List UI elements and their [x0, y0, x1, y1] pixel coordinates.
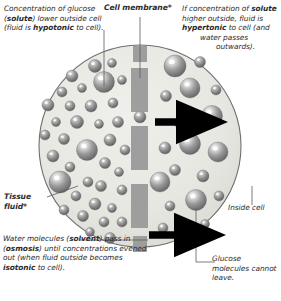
- molecule-highlight: [200, 173, 203, 175]
- glucose-molecule: [104, 134, 116, 146]
- molecule-highlight: [154, 176, 159, 180]
- glucose-molecule: [211, 85, 221, 95]
- glucose-molecule: [186, 190, 207, 211]
- label-inside-cell: Inside cell: [228, 203, 280, 213]
- molecule-highlight: [96, 121, 98, 123]
- glucose-molecule: [117, 217, 127, 227]
- molecule-highlight: [119, 187, 122, 189]
- glucose-molecule: [202, 106, 223, 127]
- glucose-molecule: [201, 220, 210, 229]
- molecule-highlight: [172, 167, 175, 169]
- glucose-molecule: [65, 162, 75, 172]
- label-top-right-l3a: fluid is: [239, 14, 263, 23]
- glucose-molecule: [71, 191, 81, 201]
- label-top-right-l6: outwards).: [182, 42, 278, 52]
- label-top-left-l2c: ) lower: [32, 14, 57, 23]
- label-bottom-left-l5c: to cell).: [35, 263, 65, 272]
- glucose-molecule: [71, 116, 84, 129]
- glucose-molecule: [113, 117, 124, 128]
- molecule-highlight: [163, 93, 166, 95]
- label-bottom-left-l5a: becomes: [90, 253, 123, 262]
- label-cell-membrane-text: Cell membrane*: [104, 3, 172, 12]
- molecule-highlight: [160, 225, 163, 227]
- label-bottom-left-l1: Water molecules: [3, 234, 64, 243]
- molecule-highlight: [212, 146, 217, 150]
- molecule-highlight: [87, 229, 89, 231]
- label-top-right: If concentration of solute higher outsid…: [182, 4, 278, 52]
- molecule-highlight: [42, 132, 45, 134]
- term-solute-2: solute: [251, 4, 277, 13]
- molecule-highlight: [79, 85, 81, 87]
- glucose-molecule: [120, 145, 130, 155]
- molecule-highlight: [167, 203, 170, 205]
- molecule-highlight: [61, 136, 64, 138]
- glucose-molecule: [99, 217, 109, 227]
- molecule-highlight: [98, 76, 103, 80]
- molecule-highlight: [53, 119, 55, 121]
- molecule-highlight: [59, 89, 62, 91]
- glucose-molecule: [115, 168, 124, 177]
- glucose-molecule: [108, 204, 117, 213]
- molecule-highlight: [184, 82, 189, 86]
- molecule-highlight: [197, 59, 200, 61]
- glucose-molecule: [95, 120, 104, 129]
- glucose-molecule: [164, 55, 186, 77]
- term-solvent: solvent: [69, 234, 99, 243]
- label-tissue-fluid-l2: fluid*: [4, 202, 27, 211]
- label-bottom-right: Glucose molecules cannot leave.: [212, 254, 278, 283]
- molecule-highlight: [81, 144, 86, 148]
- glucose-molecule: [108, 98, 118, 108]
- glucose-molecule: [42, 99, 54, 111]
- glucose-molecule: [159, 142, 171, 154]
- molecule-highlight: [80, 213, 83, 215]
- glucose-molecule: [89, 60, 102, 73]
- glucose-molecule: [40, 130, 50, 140]
- glucose-molecule: [100, 158, 111, 169]
- glucose-molecule: [165, 201, 175, 211]
- glucose-molecule: [134, 111, 146, 123]
- glucose-molecule: [77, 140, 98, 161]
- term-hypertonic: hypertonic: [182, 23, 226, 32]
- molecule-highlight: [119, 77, 121, 79]
- molecule-highlight: [102, 160, 105, 162]
- osmosis-diagram: Concentration of glucose (solute) lower …: [0, 0, 281, 301]
- glucose-molecule: [59, 134, 70, 145]
- label-bottom-left-l2c: ) pass in: [100, 234, 131, 243]
- glucose-molecule: [118, 76, 127, 85]
- glucose-molecule: [117, 185, 127, 195]
- molecule-highlight: [67, 103, 70, 105]
- glucose-molecule: [214, 191, 224, 201]
- molecule-highlight: [213, 87, 216, 89]
- label-bottom-right-l2: molecules: [212, 264, 249, 273]
- molecule-highlight: [190, 194, 195, 198]
- label-bottom-left-l3c: ) until concentrations: [39, 244, 117, 253]
- molecule-highlight: [101, 219, 104, 221]
- molecule-highlight: [54, 176, 60, 180]
- term-hypotonic: hypotonic: [33, 23, 74, 32]
- glucose-molecule: [197, 170, 209, 182]
- term-isotonic: isotonic: [3, 263, 35, 272]
- membrane-segment: [131, 126, 148, 170]
- glucose-molecule: [85, 100, 97, 112]
- molecule-highlight: [169, 60, 175, 64]
- molecule-highlight: [98, 183, 101, 185]
- membrane-segment: [131, 184, 148, 228]
- glucose-molecule: [83, 177, 93, 187]
- molecule-highlight: [122, 147, 125, 149]
- molecule-highlight: [85, 179, 88, 181]
- glucose-molecule: [57, 87, 67, 97]
- term-osmosis: osmosis: [6, 244, 39, 253]
- molecule-highlight: [109, 205, 111, 207]
- glucose-molecule: [59, 205, 69, 215]
- molecule-highlight: [107, 137, 110, 139]
- glucose-molecule: [108, 59, 117, 68]
- molecule-highlight: [69, 73, 72, 75]
- label-top-right-l4: to cell (and: [229, 23, 270, 32]
- label-bottom-right-l1: Glucose: [212, 254, 241, 263]
- molecule-highlight: [45, 102, 48, 104]
- glucose-molecule: [150, 172, 170, 192]
- label-bottom-left: Water molecules (solvent) pass in (osmos…: [3, 234, 157, 272]
- molecule-highlight: [88, 103, 91, 105]
- membrane-segment: [131, 68, 148, 112]
- molecule-highlight: [61, 207, 64, 209]
